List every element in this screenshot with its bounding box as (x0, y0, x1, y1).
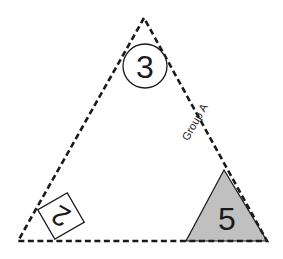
edge-label-group-a: Group A (179, 101, 210, 143)
circle-marker: 3 (123, 44, 167, 88)
triangle-diagram: 3 2 5 Group A (0, 0, 283, 259)
shaded-triangle-label: 5 (218, 201, 236, 237)
square-marker: 2 (38, 193, 85, 240)
circle-marker-label: 3 (136, 49, 154, 85)
